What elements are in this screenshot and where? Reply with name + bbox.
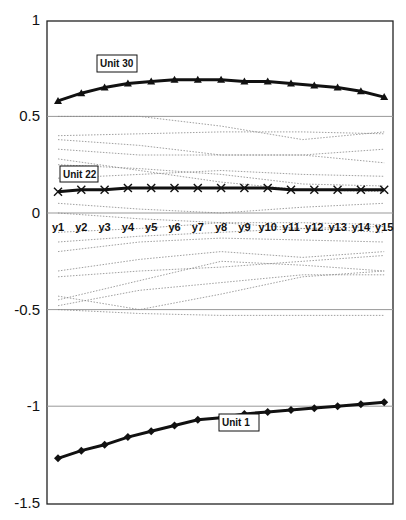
series-label: Unit 1 xyxy=(222,417,250,428)
x-axis-labels: y1y2y3y4y5y6y7y8y9y10y11y12y13y14y15 xyxy=(52,221,394,233)
x-tick-label: y2 xyxy=(75,221,87,233)
series-label: Unit 22 xyxy=(63,169,97,180)
x-tick-label: y12 xyxy=(305,221,323,233)
y-tick-label: -0.5 xyxy=(14,301,40,318)
line-chart: 10.50-0.5-1-1.5 y1y2y3y4y5y6y7y8y9y10y11… xyxy=(0,0,406,520)
x-tick-label: y1 xyxy=(52,221,64,233)
y-tick-label: 0 xyxy=(32,204,40,221)
x-tick-label: y10 xyxy=(259,221,277,233)
x-tick-label: y11 xyxy=(282,221,300,233)
x-tick-label: y4 xyxy=(122,221,135,233)
x-tick-label: y15 xyxy=(375,221,393,233)
x-tick-label: y14 xyxy=(352,221,371,233)
y-tick-label: 0.5 xyxy=(19,107,40,124)
x-tick-label: y13 xyxy=(328,221,346,233)
x-tick-label: y6 xyxy=(168,221,180,233)
x-tick-label: y5 xyxy=(145,221,157,233)
y-axis-ticks: 10.50-0.5-1-1.5 xyxy=(14,11,40,511)
series-label: Unit 30 xyxy=(100,58,134,69)
y-tick-label: 1 xyxy=(32,11,40,28)
x-tick-label: y3 xyxy=(98,221,110,233)
x-tick-label: y8 xyxy=(215,221,227,233)
x-tick-label: y9 xyxy=(238,221,250,233)
y-tick-label: -1 xyxy=(27,397,40,414)
x-tick-label: y7 xyxy=(192,221,204,233)
y-tick-label: -1.5 xyxy=(14,494,40,511)
plot-area xyxy=(47,21,393,504)
